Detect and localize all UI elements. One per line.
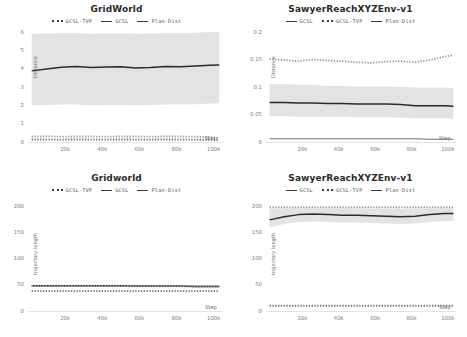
legend-label-gcsl: GCSL <box>300 187 313 193</box>
plot-area: 012345620k40k60k80k100kDistanceStep <box>28 32 223 142</box>
legend-item-plan-dist: Plan-Dist <box>371 187 415 193</box>
legend-label-gcsl-tvp: GCSL-TVP <box>336 187 363 193</box>
x-tick-label: 40k <box>90 315 114 321</box>
y-tick-label: 0 <box>0 139 24 145</box>
legend-label-gcsl: GCSL <box>300 18 313 24</box>
y-tick-label: 200 <box>0 203 24 209</box>
legend: GCSL-TVP GCSL Plan-Dist <box>0 187 233 193</box>
legend-label-plan-dist: Plan-Dist <box>151 18 181 24</box>
y-tick-label: 0.1 <box>238 84 262 90</box>
x-tick-label: 100k <box>436 146 460 152</box>
plot-area: 05010015020020k40k60k80k100ktrajectory l… <box>28 201 223 311</box>
x-tick-label: 40k <box>327 315 351 321</box>
x-tick-label: 40k <box>327 146 351 152</box>
x-tick-label: 20k <box>290 146 314 152</box>
legend-label-gcsl-tvp: GCSL-TVP <box>66 187 93 193</box>
chart-svg <box>266 32 457 142</box>
y-tick-label: 50 <box>0 281 24 287</box>
figure-grid: GridWorld GCSL-TVP GCSL Plan-Dist 012345… <box>0 0 467 337</box>
series-line-gcsl_tvp <box>270 55 454 63</box>
panel-bottom-right: SawyerReachXYZEnv-v1 GCSL GCSL-TVP Plan-… <box>234 169 467 337</box>
legend-swatch-plan-dist <box>137 21 148 22</box>
x-tick-label: 60k <box>127 146 151 152</box>
legend-item-plan-dist: Plan-Dist <box>137 187 181 193</box>
x-axis-label: Step <box>205 135 217 141</box>
legend-swatch-plan-dist <box>371 190 382 191</box>
y-tick-label: 3 <box>0 84 24 90</box>
legend-label-plan-dist: Plan-Dist <box>385 18 415 24</box>
legend-item-gcsl-tvp: GCSL-TVP <box>322 18 363 24</box>
x-tick-label: 80k <box>165 146 189 152</box>
legend-label-gcsl-tvp: GCSL-TVP <box>336 18 363 24</box>
legend-label-plan-dist: Plan-Dist <box>151 187 181 193</box>
legend-item-gcsl: GCSL <box>101 187 128 193</box>
x-axis-label: Step <box>205 304 217 310</box>
legend: GCSL GCSL-TVP Plan-Dist <box>234 187 467 193</box>
legend-swatch-plan-dist <box>137 190 148 191</box>
x-tick-label: 60k <box>127 315 151 321</box>
confidence-band-gcsl <box>270 84 454 119</box>
x-tick-label: 100k <box>202 315 226 321</box>
series-line-gcsl_tvp <box>32 137 220 138</box>
panel-title: SawyerReachXYZEnv-v1 <box>234 173 467 183</box>
x-tick-label: 100k <box>202 146 226 152</box>
y-tick-label: 50 <box>238 281 262 287</box>
y-tick-label: 4 <box>0 65 24 71</box>
y-tick-label: 100 <box>238 255 262 261</box>
legend-item-gcsl-tvp: GCSL-TVP <box>322 187 363 193</box>
legend-item-plan-dist: Plan-Dist <box>137 18 181 24</box>
y-tick-label: 0 <box>238 308 262 314</box>
panel-top-left: GridWorld GCSL-TVP GCSL Plan-Dist 012345… <box>0 0 233 168</box>
legend-swatch-plan-dist <box>371 21 382 22</box>
panel-title: GridWorld <box>0 4 233 14</box>
y-tick-label: 0.05 <box>238 111 262 117</box>
legend-label-plan-dist: Plan-Dist <box>385 187 415 193</box>
legend-label-gcsl: GCSL <box>115 187 128 193</box>
chart-svg <box>28 201 223 311</box>
legend-item-gcsl: GCSL <box>286 18 313 24</box>
panel-bottom-left: Gridworld GCSL-TVP GCSL Plan-Dist 050100… <box>0 169 233 337</box>
y-axis-label: Distance <box>270 56 276 78</box>
chart-svg <box>28 32 223 142</box>
legend-label-gcsl: GCSL <box>115 18 128 24</box>
legend-swatch-gcsl-tvp <box>52 20 63 22</box>
chart-svg <box>266 201 457 311</box>
x-axis-label: Step <box>439 304 451 310</box>
y-tick-label: 150 <box>238 229 262 235</box>
x-tick-label: 80k <box>165 315 189 321</box>
y-tick-label: 2 <box>0 102 24 108</box>
y-tick-label: 0.15 <box>238 56 262 62</box>
x-tick-label: 20k <box>290 315 314 321</box>
x-axis-label: Step <box>439 135 451 141</box>
y-tick-label: 0 <box>238 139 262 145</box>
y-tick-label: 0.2 <box>238 29 262 35</box>
legend-swatch-gcsl <box>101 21 112 22</box>
x-tick-label: 80k <box>400 146 424 152</box>
x-tick-label: 20k <box>53 315 77 321</box>
x-tick-label: 60k <box>363 146 387 152</box>
legend-label-gcsl-tvp: GCSL-TVP <box>66 18 93 24</box>
y-axis-label: Distance <box>32 56 38 78</box>
legend-item-plan-dist: Plan-Dist <box>371 18 415 24</box>
x-tick-label: 100k <box>436 315 460 321</box>
legend-item-gcsl: GCSL <box>286 187 313 193</box>
legend-swatch-gcsl-tvp <box>52 189 63 191</box>
x-tick-label: 60k <box>363 315 387 321</box>
confidence-band-gcsl <box>270 208 454 227</box>
y-tick-label: 0 <box>0 308 24 314</box>
legend: GCSL GCSL-TVP Plan-Dist <box>234 18 467 24</box>
legend-swatch-gcsl-tvp <box>322 20 333 22</box>
y-tick-label: 200 <box>238 203 262 209</box>
series-line-plan_dist <box>270 139 454 140</box>
y-tick-label: 1 <box>0 120 24 126</box>
confidence-band-gcsl <box>32 32 220 105</box>
y-tick-label: 6 <box>0 29 24 35</box>
y-axis-label: trajectory length <box>32 233 38 275</box>
panel-title: SawyerReachXYZEnv-v1 <box>234 4 467 14</box>
y-tick-label: 5 <box>0 47 24 53</box>
legend-swatch-gcsl <box>286 190 297 191</box>
legend-swatch-gcsl <box>286 21 297 22</box>
legend-swatch-gcsl-tvp <box>322 189 333 191</box>
legend-item-gcsl: GCSL <box>101 18 128 24</box>
series-line-plan_dist <box>32 139 220 140</box>
